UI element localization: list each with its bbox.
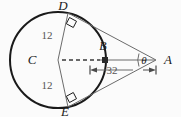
- label-radius-bottom-12: 12: [42, 79, 53, 91]
- geometry-figure: D E C B A 12 12 32 θ: [0, 0, 181, 117]
- point-b-marker: [102, 57, 108, 63]
- geometry-diagram-svg: D E C B A 12 12 32 θ: [0, 0, 181, 117]
- label-angle-theta: θ: [141, 54, 147, 66]
- label-point-e: E: [60, 104, 69, 117]
- label-point-c: C: [28, 52, 37, 67]
- label-point-a: A: [163, 52, 172, 67]
- label-length-32: 32: [107, 64, 118, 76]
- label-point-b: B: [99, 39, 107, 53]
- label-point-d: D: [57, 0, 68, 13]
- label-radius-top-12: 12: [42, 29, 53, 41]
